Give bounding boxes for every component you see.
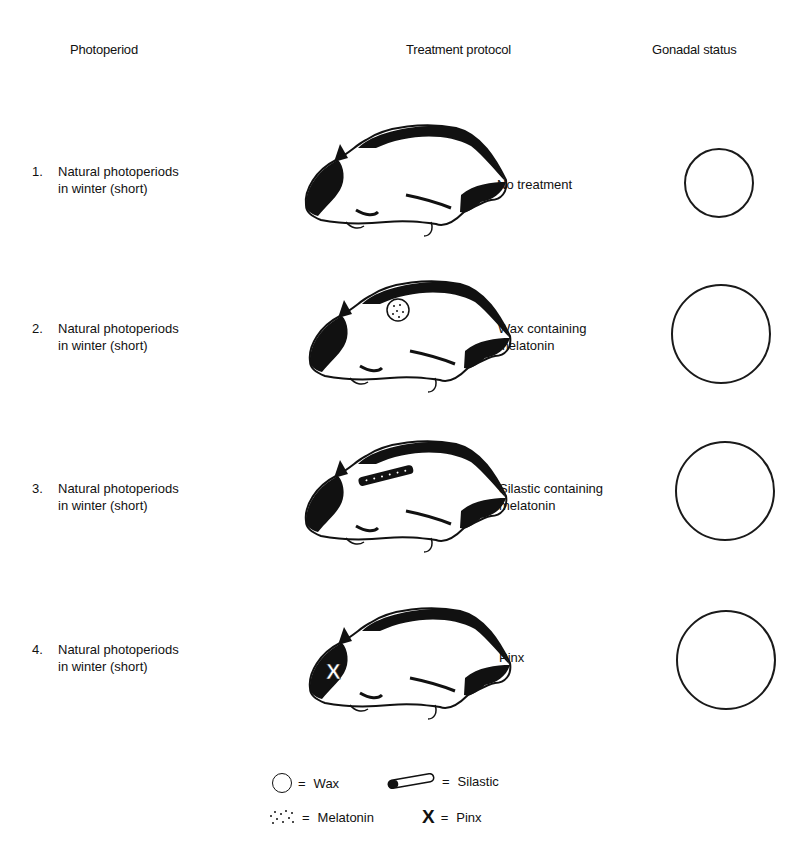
- gonad-large-circle: [671, 284, 771, 384]
- pinx-x-icon: X: [422, 806, 435, 828]
- row-3-photoperiod: 3. Natural photoperiods in winter (short…: [32, 480, 179, 514]
- row-number: 4.: [32, 641, 43, 658]
- gonad-small-circle: [684, 148, 754, 218]
- hamster-wax-implant-icon: [300, 276, 515, 396]
- row-number: 1.: [32, 163, 43, 180]
- row-1-treatment: No treatment: [497, 176, 572, 193]
- legend-wax: = Wax: [272, 773, 339, 793]
- gonad-large-circle: [675, 441, 775, 541]
- legend-pinx: X = Pinx: [422, 806, 482, 828]
- row-2-photoperiod: 2. Natural photoperiods in winter (short…: [32, 320, 179, 354]
- header-treatment-protocol: Treatment protocol: [406, 42, 511, 57]
- row-2-treatment: Wax containing melatonin: [498, 320, 586, 354]
- hamster-silastic-implant-icon: [296, 436, 511, 556]
- legend-silastic: = Silastic: [386, 773, 499, 789]
- gonad-large-circle: [676, 610, 776, 710]
- row-number: 2.: [32, 320, 43, 337]
- row-4-photoperiod: 4. Natural photoperiods in winter (short…: [32, 641, 179, 675]
- row-4-treatment: Pinx: [499, 649, 524, 666]
- row-3-treatment: Silastic containing melatonin: [499, 480, 603, 514]
- header-gonadal-status: Gonadal status: [652, 42, 737, 57]
- row-number: 3.: [32, 480, 43, 497]
- pinx-mark-icon: X: [326, 659, 341, 684]
- header-photoperiod: Photoperiod: [70, 42, 138, 57]
- silastic-tube-icon: [386, 773, 436, 789]
- hamster-pinealectomized-icon: X: [300, 603, 515, 723]
- wax-circle-icon: [272, 773, 292, 793]
- melatonin-dots-icon: [268, 808, 296, 826]
- wax-melatonin-implant-icon: [387, 299, 409, 321]
- row-1-photoperiod: 1. Natural photoperiods in winter (short…: [32, 163, 179, 197]
- legend-melatonin: = Melatonin: [268, 808, 374, 826]
- hamster-untreated-icon: [296, 120, 511, 240]
